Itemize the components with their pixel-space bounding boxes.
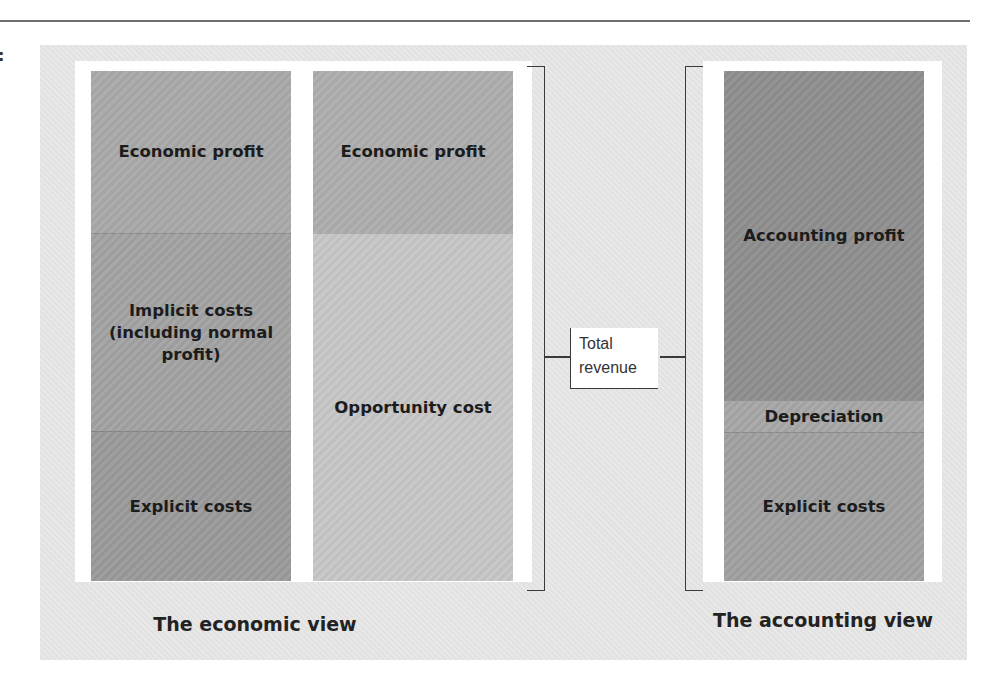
total-revenue-label: Total revenue <box>570 328 658 389</box>
accounting-column: Accounting profit Depreciation Explicit … <box>724 71 924 581</box>
block-label: Economic profit <box>332 141 493 163</box>
top-rule <box>0 20 970 22</box>
block-explicit-costs: Explicit costs <box>91 431 291 581</box>
caption-accounting-view: The accounting view <box>703 609 943 631</box>
block-explicit-costs: Explicit costs <box>724 432 924 581</box>
block-depreciation: Depreciation <box>724 400 924 432</box>
bracket-economic <box>527 66 545 591</box>
total-revenue-line2: revenue <box>579 356 658 380</box>
total-revenue-line1: Total <box>579 332 658 356</box>
economic-column-opportunity: Economic profit Opportunity cost <box>313 71 513 581</box>
stray-mark: : <box>0 48 4 64</box>
economic-column-costs: Economic profit Implicit costs (includin… <box>91 71 291 581</box>
block-label: Explicit costs <box>122 496 261 518</box>
connector-left <box>545 356 570 358</box>
block-economic-profit: Economic profit <box>91 71 291 233</box>
block-label: Accounting profit <box>735 225 912 247</box>
block-accounting-profit: Accounting profit <box>724 71 924 400</box>
connector-right <box>660 356 686 358</box>
block-opportunity-cost: Opportunity cost <box>313 233 513 581</box>
caption-economic-view: The economic view <box>90 613 420 635</box>
block-label: Depreciation <box>756 406 891 428</box>
block-label: Explicit costs <box>755 496 894 518</box>
block-label: Opportunity cost <box>326 397 499 419</box>
block-implicit-costs: Implicit costs (including normal profit) <box>91 233 291 431</box>
bracket-accounting <box>685 66 703 591</box>
block-label: Economic profit <box>110 141 271 163</box>
block-label: Implicit costs (including normal profit) <box>91 300 291 366</box>
block-economic-profit: Economic profit <box>313 71 513 233</box>
